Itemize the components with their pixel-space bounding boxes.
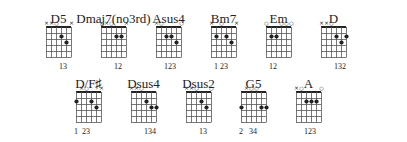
open-string-icon: ○ bbox=[84, 85, 89, 91]
finger-numbers: 2 34 bbox=[239, 128, 257, 136]
fretboard-grid: ××○ bbox=[321, 12, 351, 62]
finger-dot bbox=[59, 34, 63, 38]
finger-dot bbox=[164, 34, 168, 38]
open-string-icon: ○ bbox=[254, 85, 259, 91]
muted-string-icon: × bbox=[49, 19, 54, 26]
open-string-icon: ○ bbox=[319, 85, 324, 91]
finger-dot bbox=[229, 40, 233, 44]
open-string-icon: ○ bbox=[109, 20, 114, 26]
finger-dot bbox=[314, 99, 318, 103]
finger-dot bbox=[199, 99, 203, 103]
muted-string-icon: × bbox=[104, 19, 109, 26]
muted-string-icon: × bbox=[79, 84, 84, 91]
muted-string-icon: × bbox=[244, 84, 249, 91]
muted-string-icon: × bbox=[209, 19, 214, 26]
finger-dot bbox=[119, 34, 123, 38]
finger-dot bbox=[64, 40, 68, 44]
open-string-icon: ○ bbox=[299, 85, 304, 91]
finger-numbers: 12 bbox=[114, 63, 122, 71]
finger-dot bbox=[214, 34, 218, 38]
open-string-icon: ○ bbox=[264, 20, 269, 26]
finger-dot bbox=[144, 99, 148, 103]
muted-string-icon: × bbox=[189, 84, 194, 91]
finger-dot bbox=[174, 40, 178, 44]
fretboard-grid: ×○○ bbox=[296, 77, 326, 127]
open-string-icon: ○ bbox=[194, 85, 199, 91]
finger-dot bbox=[344, 34, 348, 38]
finger-numbers: 132 bbox=[334, 63, 346, 71]
muted-string-icon: × bbox=[154, 19, 159, 26]
finger-dot bbox=[89, 99, 93, 103]
finger-numbers: 134 bbox=[144, 128, 156, 136]
finger-dot bbox=[339, 40, 343, 44]
finger-dot bbox=[309, 99, 313, 103]
finger-dot bbox=[74, 99, 78, 103]
open-string-icon: ○ bbox=[219, 20, 224, 26]
finger-dot bbox=[169, 34, 173, 38]
finger-dot bbox=[334, 34, 338, 38]
finger-dot bbox=[154, 105, 158, 109]
finger-dot bbox=[94, 105, 98, 109]
finger-dot bbox=[114, 34, 118, 38]
finger-dot bbox=[224, 34, 228, 38]
finger-dot bbox=[259, 105, 263, 109]
finger-numbers: 13 bbox=[199, 128, 207, 136]
muted-string-icon: × bbox=[134, 84, 139, 91]
finger-numbers: 123 bbox=[304, 128, 316, 136]
muted-string-icon: × bbox=[294, 84, 299, 91]
finger-numbers: 1 23 bbox=[214, 63, 228, 71]
finger-dot bbox=[269, 34, 273, 38]
open-string-icon: ○ bbox=[159, 20, 164, 26]
finger-dot bbox=[149, 105, 153, 109]
finger-numbers: 13 bbox=[59, 63, 67, 71]
finger-dot bbox=[304, 99, 308, 103]
open-string-icon: ○ bbox=[54, 20, 59, 26]
muted-string-icon: × bbox=[324, 19, 329, 26]
finger-numbers: 12 bbox=[269, 63, 277, 71]
finger-dot bbox=[264, 105, 268, 109]
finger-dot bbox=[274, 34, 278, 38]
finger-dot bbox=[239, 105, 243, 109]
finger-numbers: 1 23 bbox=[74, 128, 90, 136]
open-string-icon: ○ bbox=[329, 20, 334, 26]
open-string-icon: ○ bbox=[139, 85, 144, 91]
finger-dot bbox=[204, 105, 208, 109]
finger-numbers: 123 bbox=[164, 63, 176, 71]
